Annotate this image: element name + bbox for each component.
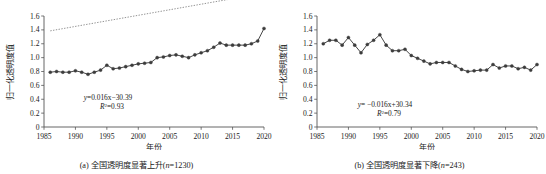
panel-b-caption: (b) 全国透明度显著下降(n=243)	[273, 158, 546, 170]
data-line	[50, 28, 264, 74]
data-point	[187, 56, 190, 59]
data-point	[385, 44, 388, 47]
data-point	[485, 69, 488, 72]
panel-a-caption-prefix: (a) 全国透明度显著上升(	[80, 161, 166, 170]
y-tick-label: 0.8	[303, 67, 313, 76]
data-point	[523, 66, 526, 69]
data-point	[68, 71, 71, 74]
data-point	[491, 63, 494, 66]
plot-area-a: 00.20.40.60.81.01.21.41.6198519901995200…	[0, 0, 273, 150]
x-tick-label: 1995	[372, 132, 387, 141]
x-tick-label: 1985	[309, 132, 324, 141]
plot-area-b: 00.20.40.60.81.01.21.41.6198519901995200…	[273, 0, 546, 150]
data-point	[416, 57, 419, 60]
data-point	[55, 70, 58, 73]
data-point	[137, 62, 140, 65]
panel-a-caption-suffix: =1230)	[170, 161, 194, 170]
data-point	[460, 68, 463, 71]
data-point	[149, 61, 152, 64]
data-point	[218, 42, 221, 45]
chart-panel-b: 00.20.40.60.81.01.21.41.6198519901995200…	[273, 0, 546, 174]
y-tick-label: 1.4	[303, 25, 313, 34]
data-point	[162, 55, 165, 58]
y-tick-label: 1.2	[303, 39, 313, 48]
y-tick-label: 0.2	[303, 109, 313, 118]
chart-panel-a: 00.20.40.60.81.01.21.41.6198519901995200…	[0, 0, 273, 174]
data-point	[250, 42, 253, 45]
data-point	[347, 36, 350, 39]
data-point	[359, 51, 362, 54]
y-tick-label: 1.6	[30, 12, 40, 21]
r-squared-value: R2=0.93	[99, 102, 124, 111]
data-point	[86, 73, 89, 76]
data-point	[429, 62, 432, 65]
data-point	[193, 53, 196, 56]
data-point	[256, 39, 259, 42]
x-tick-label: 2010	[194, 132, 209, 141]
data-point	[174, 53, 177, 56]
x-tick-label: 2015	[498, 132, 513, 141]
x-axis-title: 年份	[419, 142, 435, 150]
trend-line	[50, 0, 264, 31]
y-tick-label: 0	[36, 123, 40, 132]
x-tick-label: 2010	[467, 132, 482, 141]
data-point	[105, 64, 108, 67]
y-axis-title: 归一化透明度值	[278, 44, 288, 100]
r-squared-value: R2=0.79	[376, 109, 401, 118]
data-point	[99, 69, 102, 72]
data-point	[366, 43, 369, 46]
data-point	[422, 60, 425, 63]
data-point	[143, 62, 146, 65]
data-point	[391, 49, 394, 52]
data-point	[206, 49, 209, 52]
data-point	[504, 64, 507, 67]
y-tick-label: 0.8	[30, 67, 40, 76]
data-point	[231, 44, 234, 47]
data-point	[510, 64, 513, 67]
data-point	[124, 65, 127, 68]
data-point	[529, 69, 532, 72]
data-point	[378, 33, 381, 36]
data-point	[410, 54, 413, 57]
data-point	[212, 46, 215, 49]
x-tick-label: 1990	[68, 132, 83, 141]
y-tick-label: 0.2	[30, 109, 40, 118]
x-tick-label: 2000	[131, 132, 146, 141]
data-point	[112, 67, 115, 70]
data-point	[479, 69, 482, 72]
x-tick-label: 1995	[99, 132, 114, 141]
data-point	[341, 44, 344, 47]
y-axis-title: 归一化透明度值	[5, 44, 15, 100]
data-point	[454, 64, 457, 67]
trend-equation: y=0.016x−30.39	[83, 93, 133, 102]
data-point	[328, 39, 331, 42]
data-point	[353, 44, 356, 47]
data-point	[334, 39, 337, 42]
y-tick-label: 1.0	[30, 53, 40, 62]
data-point	[473, 69, 476, 72]
panel-a-caption: (a) 全国透明度显著上升(n=1230)	[0, 158, 273, 170]
data-point	[397, 49, 400, 52]
data-point	[466, 70, 469, 73]
y-tick-label: 1.2	[30, 39, 40, 48]
y-tick-label: 1.4	[30, 25, 40, 34]
y-tick-label: 1.6	[303, 12, 313, 21]
data-point	[181, 55, 184, 58]
data-point	[441, 61, 444, 64]
panel-b-caption-prefix: (b) 全国透明度显著下降(	[354, 161, 440, 170]
y-tick-label: 0.6	[303, 81, 313, 90]
data-point	[435, 61, 438, 64]
y-tick-label: 1.0	[303, 53, 313, 62]
x-axis-title: 年份	[146, 142, 162, 150]
x-tick-label: 2005	[435, 132, 450, 141]
data-point	[118, 66, 121, 69]
x-tick-label: 1990	[341, 132, 356, 141]
data-point	[498, 66, 501, 69]
x-tick-label: 2000	[404, 132, 419, 141]
data-point	[322, 42, 325, 45]
data-point	[74, 69, 77, 72]
data-point	[130, 64, 133, 67]
x-tick-label: 2005	[162, 132, 177, 141]
y-tick-label: 0.4	[303, 95, 313, 104]
data-point	[200, 51, 203, 54]
